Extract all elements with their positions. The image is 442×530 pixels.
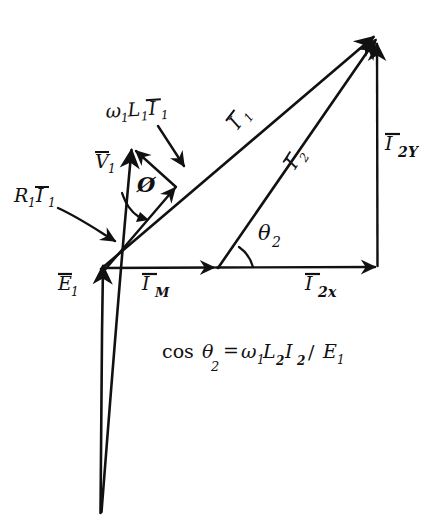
equation-E-subscript: 1 — [337, 353, 345, 367]
vector-I1 — [101, 37, 374, 269]
equation-cos: cos — [162, 340, 194, 362]
equation-theta-subscript: 2 — [210, 359, 219, 374]
label-theta-subscript: 2 — [271, 234, 281, 250]
phasor-diagram-figure: ω 1 L 1 I 1 V 1 R 1 I 1 Ø I 1 — [0, 0, 442, 530]
vector-IM — [102, 268, 214, 269]
angle-theta2-arc — [239, 247, 253, 267]
label-I2y-glyph: I — [384, 132, 393, 154]
label-E1: E 1 — [57, 272, 79, 299]
vector-R1I1 — [103, 188, 175, 272]
label-I2x-glyph: I — [304, 272, 313, 294]
equation-L: L — [262, 340, 276, 362]
equation-I: I — [284, 340, 293, 362]
label-R-glyph: R — [13, 184, 28, 206]
label-V1: V 1 — [95, 150, 116, 176]
vector-I2 — [218, 40, 376, 268]
label-theta-glyph: θ — [258, 221, 271, 245]
label-L-glyph: L — [126, 98, 141, 121]
label-R-subscript: 1 — [28, 196, 36, 210]
vector-I2x — [216, 267, 375, 268]
label-I2x: I 2 x — [304, 272, 337, 300]
label-I2x-subscript-x: x — [327, 284, 337, 300]
equation-E: E — [322, 340, 337, 362]
label-I-subscript: 1 — [160, 108, 169, 122]
equation-slash: / — [308, 341, 315, 363]
label-R1I1: R 1 I 1 — [13, 184, 56, 210]
label-IM: I M — [141, 272, 170, 300]
label-theta2: θ 2 — [258, 221, 281, 250]
label-I2y: I 2 Y — [384, 132, 420, 160]
equation-omega: ω — [241, 340, 257, 362]
label-RI-subscript: 1 — [48, 196, 56, 210]
label-I2-subscript: 2 — [296, 150, 312, 165]
label-V-subscript: 1 — [108, 162, 116, 176]
vector-E1 — [101, 266, 104, 513]
label-IM-glyph: I — [141, 272, 150, 294]
equation-equals: = — [223, 339, 239, 361]
diagram-canvas: ω 1 L 1 I 1 V 1 R 1 I 1 Ø I 1 — [0, 0, 442, 530]
vector-I2y — [377, 44, 378, 266]
label-IM-subscript: M — [154, 285, 170, 300]
label-E1-subscript: 1 — [71, 285, 79, 299]
equation-L-subscript: 2 — [275, 354, 284, 368]
label-I2x-subscript-2: 2 — [317, 284, 328, 300]
label-phi: Ø — [136, 172, 157, 197]
label-omega-glyph: ω — [105, 99, 122, 122]
equation-I-subscript: 2 — [296, 354, 305, 368]
label-E1-glyph: E — [57, 272, 72, 294]
label-I1: I 1 — [223, 103, 257, 136]
equation-cos-theta2: cos θ 2 = ω 1 L 2 I 2 / E 1 — [162, 339, 345, 374]
leader-R1I1 — [58, 208, 115, 241]
label-I1-subscript: 1 — [241, 110, 257, 125]
label-I2y-subscript-y: Y — [408, 144, 420, 160]
label-I2y-subscript-2: 2 — [397, 144, 408, 160]
leader-omega-L-I — [158, 126, 184, 166]
label-omega-L1-I1: ω 1 L 1 I 1 — [105, 96, 169, 126]
label-RI-glyph: I — [35, 184, 44, 206]
